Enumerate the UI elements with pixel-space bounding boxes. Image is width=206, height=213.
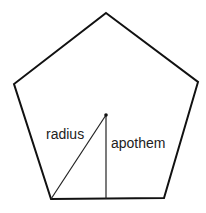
radius-label: radius — [46, 126, 84, 142]
center-point — [104, 113, 108, 117]
apothem-label: apothem — [111, 135, 165, 151]
pentagon-diagram: radius apothem — [0, 0, 206, 213]
